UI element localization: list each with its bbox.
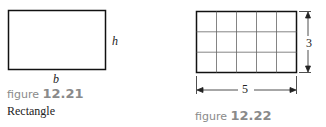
rectangle-diagram	[0, 0, 163, 80]
figure-caption: Rectangle	[7, 104, 55, 119]
base-label: b	[53, 72, 59, 87]
height-label: h	[112, 34, 118, 49]
width-value: 5	[242, 82, 248, 97]
figure-label: figure 12.21	[7, 86, 84, 101]
figure-label: figure 12.22	[195, 108, 272, 123]
height-value: 3	[306, 36, 312, 51]
